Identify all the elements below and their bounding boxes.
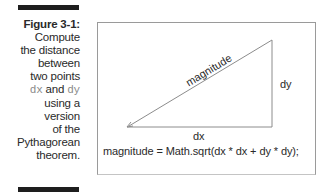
hypotenuse-line	[129, 40, 272, 126]
formula-text: magnitude = Math.sqrt(dx * dx + dy * dy)…	[103, 145, 299, 157]
vertical-label: dy	[280, 78, 292, 90]
triangle-diagram	[0, 0, 327, 192]
horizontal-label: dx	[193, 130, 205, 142]
